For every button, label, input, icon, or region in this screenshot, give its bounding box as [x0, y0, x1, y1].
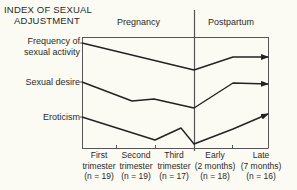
x-label-line: (2 months)	[193, 161, 237, 172]
x-label-line: Late	[239, 150, 283, 161]
x-label-line: (n = 16)	[239, 171, 283, 182]
x-label-early-postpartum: Early (2 months) (n = 18)	[193, 150, 237, 182]
series-line-desire	[82, 82, 268, 108]
x-label-line: (n = 17)	[152, 171, 196, 182]
x-label-line: Third	[152, 150, 196, 161]
x-label-line: (7 months)	[239, 161, 283, 172]
series-line-eroticism	[82, 114, 268, 144]
plot-frame	[82, 10, 269, 151]
x-label-third-trimester: Third trimester (n = 17)	[152, 150, 196, 182]
x-label-line: Early	[193, 150, 237, 161]
x-label-line: (n = 18)	[193, 171, 237, 182]
x-label-late-postpartum: Late (7 months) (n = 16)	[239, 150, 283, 182]
x-label-line: trimester	[152, 161, 196, 172]
series-line-frequency	[82, 43, 268, 70]
